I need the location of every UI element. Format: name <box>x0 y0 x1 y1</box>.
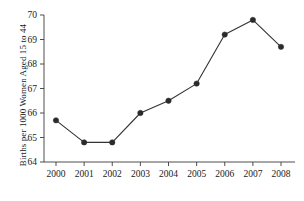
data-point <box>110 140 115 145</box>
x-tick-label: 2007 <box>243 169 262 179</box>
data-point <box>166 98 171 103</box>
x-tick-label: 2001 <box>75 169 94 179</box>
x-axis-ticks: 200020012002200320042005200620072008 <box>47 162 291 179</box>
x-tick-label: 2002 <box>103 169 122 179</box>
y-tick-label: 65 <box>28 133 38 143</box>
y-tick-label: 68 <box>28 59 38 69</box>
y-tick-label: 69 <box>28 35 38 45</box>
data-series-line <box>56 20 281 142</box>
y-tick-label: 70 <box>28 10 38 20</box>
x-tick-label: 2003 <box>131 169 150 179</box>
y-axis-ticks: 64656667686970 <box>28 10 45 167</box>
data-point <box>53 118 58 123</box>
data-point <box>81 140 86 145</box>
x-tick-label: 2005 <box>187 169 206 179</box>
data-point <box>250 17 255 22</box>
data-point <box>138 110 143 115</box>
data-point-markers <box>53 17 283 145</box>
line-chart: Births per 1000 Women Aged 15 to 44 6465… <box>0 0 304 201</box>
data-point <box>278 44 283 49</box>
x-tick-label: 2006 <box>215 169 234 179</box>
x-tick-label: 2008 <box>272 169 291 179</box>
data-point <box>194 81 199 86</box>
y-tick-label: 67 <box>28 84 38 94</box>
data-point <box>222 32 227 37</box>
plot-area: 64656667686970 2000200120022003200420052… <box>0 0 304 201</box>
x-tick-label: 2000 <box>47 169 66 179</box>
y-tick-label: 64 <box>28 157 38 167</box>
x-tick-label: 2004 <box>159 169 178 179</box>
y-tick-label: 66 <box>28 108 38 118</box>
